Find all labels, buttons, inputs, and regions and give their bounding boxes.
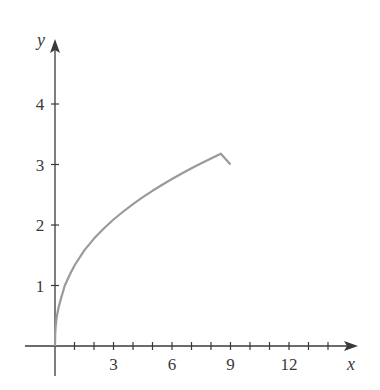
sqrt-x-graph — [55, 110, 344, 346]
sqrt-curve — [55, 139, 231, 346]
x-axis-label: x — [346, 354, 355, 374]
x-tick-label-12: 12 — [281, 355, 298, 374]
y-axis-label: y — [35, 30, 45, 50]
y-tick-label-4: 4 — [36, 95, 45, 114]
x-tick-label-3: 3 — [109, 355, 118, 374]
axes — [25, 39, 358, 376]
sqrt-x-plot — [55, 154, 231, 346]
tangent-line-chart: 3 6 9 12 1 2 3 4 x y — [0, 0, 380, 390]
sqrt-graph — [55, 157, 231, 346]
y-tick-label-2: 2 — [36, 216, 45, 235]
sqrt-x-curve — [55, 165, 172, 346]
x-tick-label-9: 9 — [226, 355, 235, 374]
sqrt-curve-line — [55, 159, 231, 346]
y-tick-label-3: 3 — [36, 156, 45, 175]
x-tick-label-6: 6 — [168, 355, 177, 374]
y-tick-label-1: 1 — [36, 277, 45, 296]
